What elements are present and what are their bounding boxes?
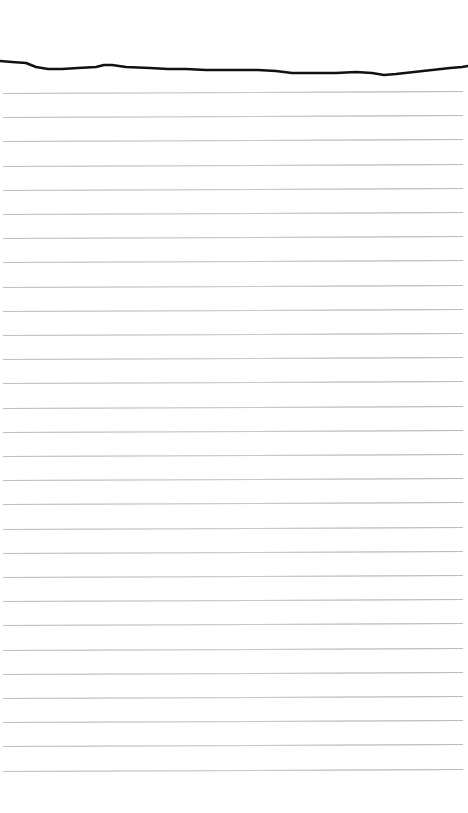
rule-line xyxy=(3,188,463,191)
rule-line xyxy=(3,357,463,360)
notebook-page xyxy=(0,0,468,813)
rule-line xyxy=(3,454,463,457)
rule-line xyxy=(3,139,463,142)
rule-line xyxy=(3,212,463,215)
rule-line xyxy=(3,769,463,772)
rule-line xyxy=(3,164,463,167)
rule-line xyxy=(3,236,463,239)
rule-line xyxy=(3,720,463,723)
rule-line xyxy=(3,285,463,288)
rule-line xyxy=(3,623,463,626)
rule-line xyxy=(3,551,463,554)
rule-line xyxy=(3,430,463,433)
rule-line xyxy=(3,527,463,530)
rule-line xyxy=(3,91,463,94)
rule-line xyxy=(3,648,463,651)
rule-line xyxy=(3,696,463,699)
rule-line xyxy=(3,260,463,263)
rule-line xyxy=(3,502,463,505)
rule-line xyxy=(3,381,463,384)
rule-line xyxy=(3,309,463,312)
rule-line xyxy=(3,333,463,336)
rule-line xyxy=(3,575,463,578)
rule-line xyxy=(3,599,463,602)
rule-line xyxy=(3,672,463,675)
rule-line xyxy=(3,478,463,481)
ruled-lines-group xyxy=(0,0,468,813)
rule-line xyxy=(3,115,463,118)
rule-line xyxy=(3,744,463,747)
rule-line xyxy=(3,406,463,409)
